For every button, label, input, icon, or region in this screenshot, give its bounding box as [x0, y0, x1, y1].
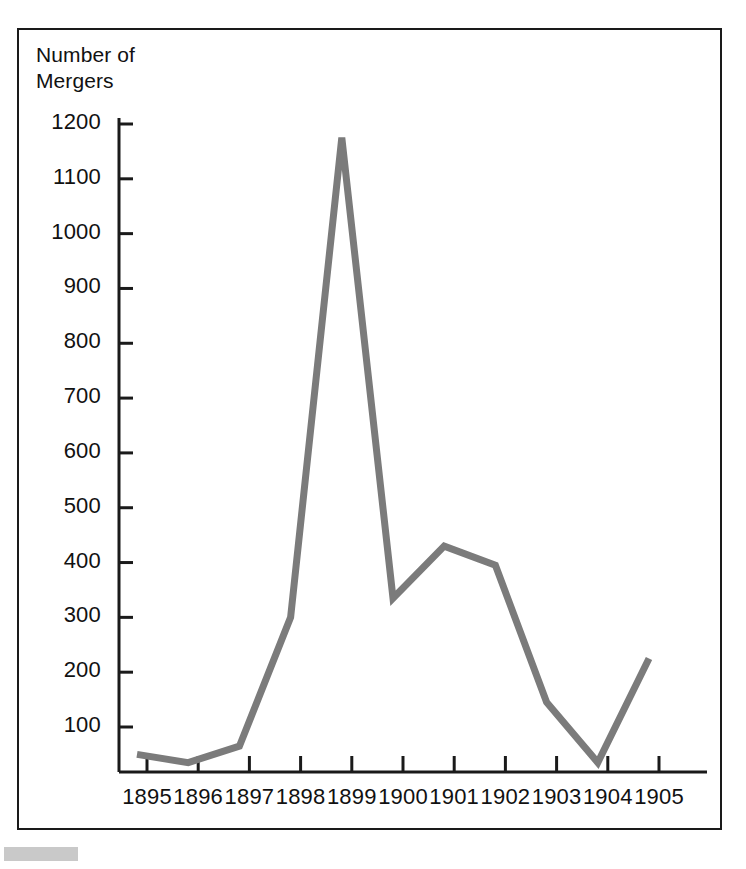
y-tick-label: 800	[27, 328, 101, 354]
tick-marks-group	[119, 124, 659, 772]
y-tick-label: 600	[27, 438, 101, 464]
y-tick-label: 700	[27, 383, 101, 409]
scan-artifact-block	[4, 847, 78, 861]
x-tick-label: 1905	[629, 784, 689, 810]
y-tick-label: 1200	[27, 109, 101, 135]
line-chart-svg	[19, 30, 724, 832]
y-tick-label: 100	[27, 712, 101, 738]
y-tick-label: 900	[27, 273, 101, 299]
y-tick-label: 300	[27, 602, 101, 628]
y-tick-label: 1000	[27, 219, 101, 245]
chart-frame: Number of Mergers 1200110010009008007006…	[17, 28, 722, 830]
axes-group	[119, 118, 707, 772]
y-tick-label: 400	[27, 548, 101, 574]
y-tick-label: 1100	[27, 164, 101, 190]
y-tick-label: 500	[27, 493, 101, 519]
y-tick-label: 200	[27, 657, 101, 683]
data-series-line	[137, 138, 649, 763]
plot-area: 120011001000900800700600500400300200100 …	[19, 30, 724, 832]
